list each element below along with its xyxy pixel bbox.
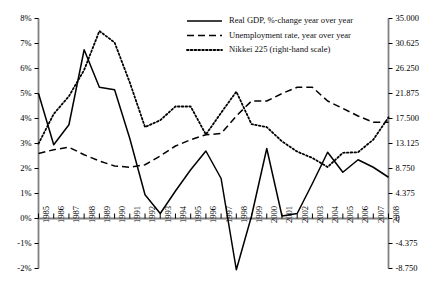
x-axis-tick-label: 1988 (88, 206, 97, 223)
x-axis-tick-label: 1986 (57, 206, 66, 223)
left-axis-tick-label: 5% (20, 89, 31, 98)
right-axis-tick-label: 17.500 (396, 114, 419, 123)
x-axis-tick-label: 1990 (118, 206, 127, 223)
legend-item-label: Real GDP, %-change year over year (229, 16, 353, 25)
left-axis-tick-label: -1% (17, 239, 31, 248)
x-axis-tick-label: 1991 (133, 206, 142, 223)
left-axis-tick-label: 4% (20, 114, 31, 123)
left-axis-tick-label: 8% (20, 14, 31, 23)
chart-container: 8%7%6%5%4%3%2%1%0%-1%-2% 35.00030.62526.… (0, 0, 441, 288)
x-axis-tick-label: 1995 (194, 206, 203, 223)
x-axis-tick-label: 1992 (148, 206, 157, 223)
right-axis-tick-label: 13.125 (396, 139, 419, 148)
x-axis-tick-label: 2003 (316, 206, 325, 223)
series-line-unemployment (39, 87, 389, 167)
x-axis-tick-label: 2008 (392, 206, 401, 223)
right-axis-tick-label: 4.375 (396, 189, 415, 198)
x-axis-tick-label: 1993 (164, 206, 173, 223)
x-axis-tick-label: 1985 (42, 206, 51, 223)
left-axis-tick-label: 2% (20, 164, 31, 173)
left-axis-tick-label: 1% (20, 189, 31, 198)
x-axis-tick-label: 1998 (240, 206, 249, 223)
right-axis-tick-label: 30.625 (396, 39, 419, 48)
x-axis-tick-label: 2005 (346, 206, 355, 223)
right-axis-tick-label: 26.250 (396, 64, 419, 73)
x-axis-tick-label: 1999 (255, 206, 264, 223)
x-axis-tick-label: 2004 (331, 206, 340, 223)
right-axis-tick-label: -4.375 (396, 239, 418, 248)
x-axis-tick-label: 1989 (103, 206, 112, 223)
chart-series-lines (39, 31, 389, 270)
left-axis-tick-label: 7% (20, 39, 31, 48)
x-axis-tick-label: 2001 (285, 206, 294, 223)
x-axis-tick-label: 1997 (225, 206, 234, 223)
legend-line-swatches (187, 21, 222, 50)
series-line-nikkei (39, 31, 389, 167)
x-axis-tick-label: 2000 (270, 206, 279, 223)
x-axis-tick-label: 2007 (377, 206, 386, 223)
right-axis-tick-label: -8.750 (396, 264, 418, 273)
left-axis-tick-label: 6% (20, 64, 31, 73)
legend-item-label: Unemployment rate, year over year (229, 31, 351, 40)
x-axis-tick-label: 2002 (301, 206, 310, 223)
x-axis-tick-label: 1987 (72, 206, 81, 223)
left-axis-tick-label: 3% (20, 139, 31, 148)
x-axis-tick-label: 1996 (209, 206, 218, 223)
x-axis-tick-label: 1994 (179, 206, 188, 223)
left-axis-tick-label: 0% (20, 214, 31, 223)
right-axis-tick-label: 21.875 (396, 89, 419, 98)
legend-item-label: Nikkei 225 (right-hand scale) (229, 45, 330, 54)
right-axis-tick-label: 35.000 (396, 14, 419, 23)
right-axis-tick-label: 8.750 (396, 164, 415, 173)
chart-axes (39, 19, 389, 269)
left-axis-tick-label: -2% (17, 264, 31, 273)
chart-plot-area (0, 0, 441, 288)
x-axis-tick-label: 2006 (361, 206, 370, 223)
chart-tick-marks (35, 19, 393, 269)
